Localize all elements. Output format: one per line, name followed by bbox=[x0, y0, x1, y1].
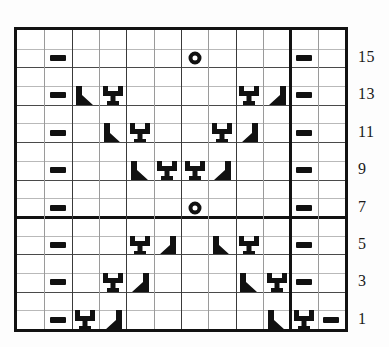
row-number-label: 1 bbox=[358, 310, 367, 328]
purl-bar-icon bbox=[296, 92, 312, 98]
chart-cell[interactable] bbox=[181, 161, 208, 180]
left-leaning-decrease-icon bbox=[103, 310, 123, 329]
chart-cell[interactable] bbox=[126, 123, 153, 142]
purl-bar-icon bbox=[50, 279, 66, 285]
raised-stitch-icon bbox=[74, 310, 96, 329]
chart-cell[interactable] bbox=[263, 273, 290, 292]
raised-stitch-icon bbox=[102, 273, 124, 292]
chart-cell[interactable] bbox=[208, 161, 235, 180]
chart-cell[interactable] bbox=[236, 273, 263, 292]
row-number-label: 15 bbox=[358, 48, 375, 66]
chart-cell[interactable] bbox=[263, 86, 290, 105]
chart-cell[interactable] bbox=[44, 161, 71, 180]
raised-stitch-icon bbox=[129, 236, 151, 255]
right-leaning-decrease-icon bbox=[75, 86, 95, 105]
grid-column-line bbox=[318, 30, 319, 329]
raised-stitch-icon bbox=[238, 86, 260, 105]
chart-cell[interactable] bbox=[44, 310, 71, 329]
chart-cell[interactable] bbox=[72, 310, 99, 329]
row-number-label: 13 bbox=[358, 85, 375, 103]
chart-cell[interactable] bbox=[99, 310, 126, 329]
purl-bar-icon bbox=[50, 205, 66, 211]
chart-cell[interactable] bbox=[99, 86, 126, 105]
left-leaning-decrease-icon bbox=[157, 236, 177, 255]
left-leaning-decrease-icon bbox=[267, 86, 287, 105]
right-leaning-decrease-icon bbox=[103, 123, 123, 142]
raised-stitch-icon bbox=[156, 161, 178, 180]
chart-cell[interactable] bbox=[44, 236, 71, 255]
chart-cell[interactable] bbox=[44, 198, 71, 217]
yarn-over-ring-icon bbox=[188, 201, 201, 214]
knitting-chart: 15131197531 bbox=[0, 0, 389, 347]
grid-column-line bbox=[72, 30, 73, 329]
grid-column-line bbox=[154, 30, 155, 329]
row-number-label: 7 bbox=[358, 198, 367, 216]
purl-bar-icon bbox=[296, 130, 312, 136]
right-leaning-decrease-icon bbox=[212, 236, 232, 255]
raised-stitch-icon bbox=[102, 86, 124, 105]
row-number-label: 9 bbox=[358, 160, 367, 178]
raised-stitch-icon bbox=[211, 123, 233, 142]
purl-bar-icon bbox=[296, 242, 312, 248]
chart-cell[interactable] bbox=[181, 198, 208, 217]
chart-cell[interactable] bbox=[44, 273, 71, 292]
chart-cell[interactable] bbox=[44, 123, 71, 142]
chart-cell[interactable] bbox=[208, 123, 235, 142]
chart-grid bbox=[17, 30, 345, 329]
raised-stitch-icon bbox=[266, 273, 288, 292]
purl-bar-icon bbox=[50, 242, 66, 248]
chart-cell[interactable] bbox=[290, 49, 317, 68]
chart-cell[interactable] bbox=[126, 273, 153, 292]
chart-cell[interactable] bbox=[44, 86, 71, 105]
chart-cell[interactable] bbox=[290, 198, 317, 217]
chart-cell[interactable] bbox=[99, 273, 126, 292]
chart-cell[interactable] bbox=[154, 161, 181, 180]
chart-cell[interactable] bbox=[318, 310, 345, 329]
chart-cell[interactable] bbox=[290, 236, 317, 255]
chart-cell[interactable] bbox=[236, 86, 263, 105]
chart-cell[interactable] bbox=[290, 310, 317, 329]
left-leaning-decrease-icon bbox=[239, 123, 259, 142]
purl-bar-icon bbox=[296, 167, 312, 173]
chart-cell[interactable] bbox=[290, 273, 317, 292]
chart-cell[interactable] bbox=[263, 310, 290, 329]
chart-cell[interactable] bbox=[181, 49, 208, 68]
chart-cell[interactable] bbox=[72, 86, 99, 105]
row-number-label: 5 bbox=[358, 235, 367, 253]
right-leaning-decrease-icon bbox=[130, 161, 150, 180]
chart-cell[interactable] bbox=[99, 123, 126, 142]
chart-cell[interactable] bbox=[290, 86, 317, 105]
row-number-label: 3 bbox=[358, 272, 367, 290]
right-leaning-decrease-icon bbox=[267, 310, 287, 329]
chart-cell[interactable] bbox=[290, 123, 317, 142]
chart-cell[interactable] bbox=[154, 236, 181, 255]
raised-stitch-icon bbox=[184, 161, 206, 180]
chart-cell[interactable] bbox=[236, 123, 263, 142]
purl-bar-icon bbox=[50, 130, 66, 136]
purl-bar-icon bbox=[50, 167, 66, 173]
purl-bar-icon bbox=[50, 317, 66, 323]
grid-column-line bbox=[208, 30, 209, 329]
purl-bar-icon bbox=[296, 279, 312, 285]
chart-grid-border bbox=[14, 27, 348, 332]
purl-bar-icon bbox=[323, 317, 339, 323]
grid-column-line bbox=[181, 30, 182, 329]
raised-stitch-icon bbox=[238, 236, 260, 255]
chart-cell[interactable] bbox=[44, 49, 71, 68]
purl-bar-icon bbox=[296, 205, 312, 211]
right-leaning-decrease-icon bbox=[239, 273, 259, 292]
left-leaning-decrease-icon bbox=[212, 161, 232, 180]
chart-cell[interactable] bbox=[290, 161, 317, 180]
purl-bar-icon bbox=[50, 92, 66, 98]
raised-stitch-icon bbox=[293, 310, 315, 329]
raised-stitch-icon bbox=[129, 123, 151, 142]
yarn-over-ring-icon bbox=[188, 52, 201, 65]
chart-cell[interactable] bbox=[236, 236, 263, 255]
chart-cell[interactable] bbox=[126, 161, 153, 180]
purl-bar-icon bbox=[296, 55, 312, 61]
chart-cell[interactable] bbox=[126, 236, 153, 255]
purl-bar-icon bbox=[50, 55, 66, 61]
row-number-label: 11 bbox=[358, 123, 374, 141]
chart-cell[interactable] bbox=[208, 236, 235, 255]
left-leaning-decrease-icon bbox=[130, 273, 150, 292]
